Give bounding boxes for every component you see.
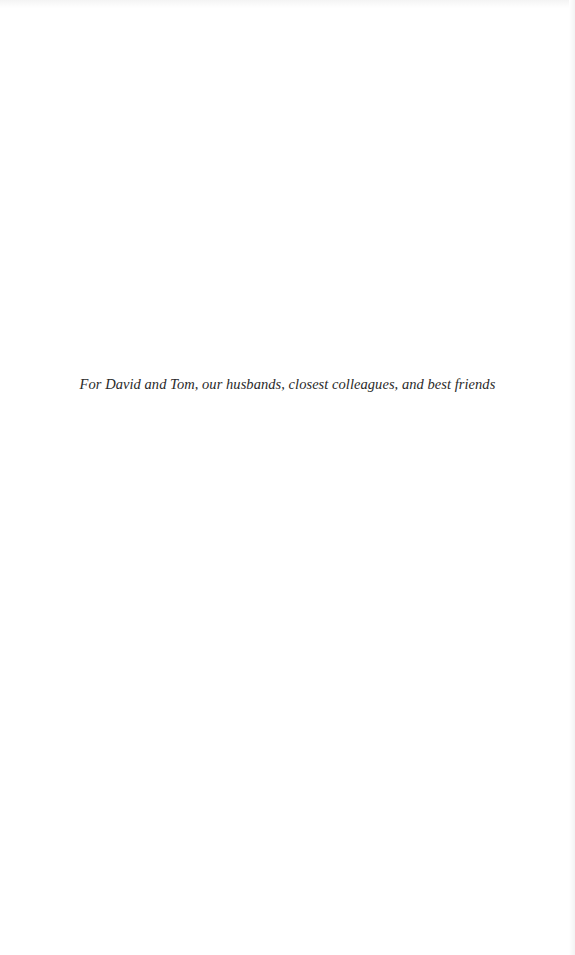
book-page: For David and Tom, our husbands, closest… <box>0 0 575 955</box>
scan-edge-top <box>0 0 575 8</box>
scan-edge-right <box>569 0 575 955</box>
dedication-text: For David and Tom, our husbands, closest… <box>0 376 575 393</box>
